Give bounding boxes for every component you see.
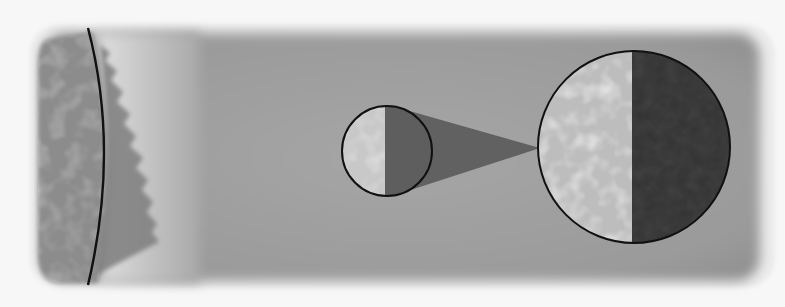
specimen-diagram xyxy=(0,0,785,307)
